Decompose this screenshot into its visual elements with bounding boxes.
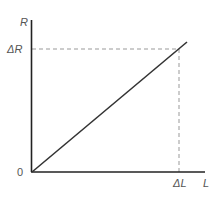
y-axis-label: R (20, 16, 28, 28)
data-line (32, 42, 187, 172)
x-axis-label: L (203, 177, 209, 189)
delta-l-label: ΔL (172, 177, 187, 189)
origin-label: 0 (17, 166, 23, 178)
diagram-canvas: R ΔR 0 ΔL L (0, 0, 217, 199)
delta-r-label: ΔR (6, 43, 22, 55)
